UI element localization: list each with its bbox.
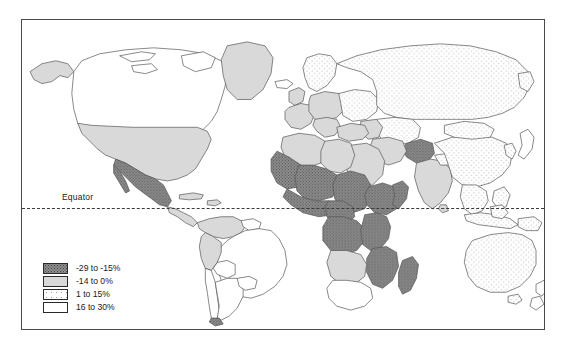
region-new-zealand	[536, 280, 544, 296]
region-japan	[518, 129, 534, 159]
legend-item-label: 1 to 15%	[76, 289, 110, 300]
region-pakistan-india	[414, 159, 452, 209]
legend-item[interactable]: 16 to 30%	[43, 301, 120, 313]
region-greenland	[221, 42, 273, 100]
map-legend: -29 to -15% -14 to 0% 1 to 15% 16 to 30%	[43, 262, 120, 313]
region-tasmania	[508, 294, 522, 304]
legend-item-label: -29 to -15%	[76, 263, 120, 274]
region-bolivia	[213, 260, 235, 278]
region-tanzania-mozambique	[367, 247, 399, 289]
region-new-guinea	[518, 217, 542, 231]
region-cuba	[179, 193, 203, 200]
legend-item[interactable]: -29 to -15%	[43, 262, 120, 274]
region-south-africa	[327, 280, 373, 310]
region-iceland	[275, 80, 293, 89]
map-frame: Equator -29 to -15% -14 to 0% 1 to 15% 1…	[21, 19, 545, 330]
region-uk-ireland	[289, 88, 305, 106]
region-eastern-europe	[339, 90, 379, 122]
region-angola-zambia	[327, 251, 367, 285]
legend-swatch-icon	[43, 302, 68, 313]
legend-swatch-icon	[43, 263, 68, 274]
region-southeast-asia	[460, 185, 488, 215]
region-new-zealand-south	[530, 296, 544, 310]
region-libya-egypt	[321, 139, 355, 173]
region-scandinavia	[303, 54, 337, 92]
region-sri-lanka	[438, 205, 448, 213]
legend-item[interactable]: -14 to 0%	[43, 275, 120, 287]
world-map-figure: Equator -29 to -15% -14 to 0% 1 to 15% 1…	[0, 0, 564, 349]
region-australia	[464, 233, 536, 293]
legend-item[interactable]: 1 to 15%	[43, 288, 120, 300]
legend-swatch-icon	[43, 289, 68, 300]
region-turkey	[337, 123, 369, 141]
region-mongolia	[444, 121, 494, 139]
legend-swatch-icon	[43, 276, 68, 287]
legend-item-label: -14 to 0%	[76, 276, 113, 287]
region-alaska	[30, 61, 74, 84]
region-east-africa-lakes	[361, 213, 391, 251]
legend-item-label: 16 to 30%	[76, 302, 115, 313]
region-indonesia	[464, 213, 518, 229]
region-united-states	[78, 123, 211, 181]
region-somalia	[393, 181, 409, 209]
region-central-america	[167, 207, 197, 227]
region-madagascar	[399, 256, 419, 294]
region-hispaniola	[207, 200, 221, 206]
region-congo-basin	[323, 217, 365, 255]
